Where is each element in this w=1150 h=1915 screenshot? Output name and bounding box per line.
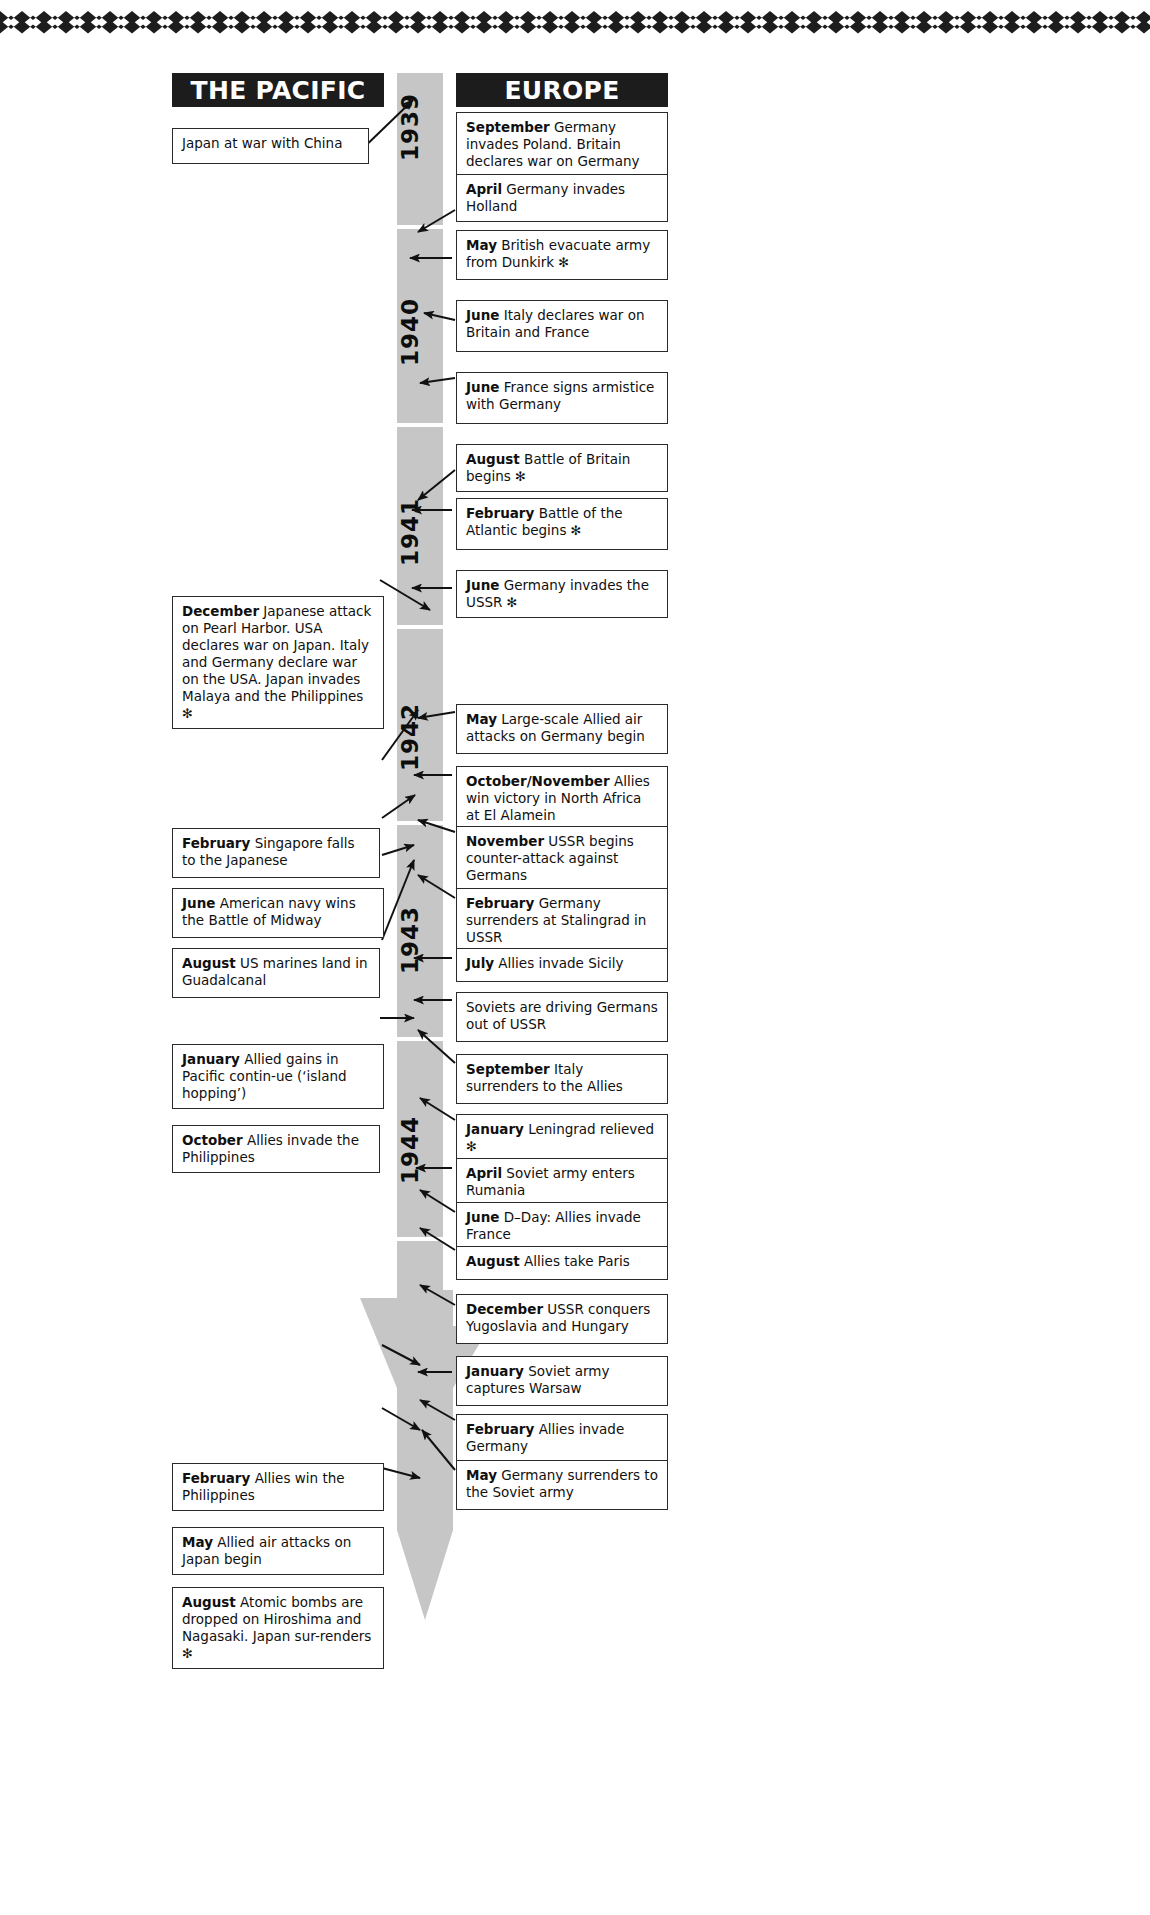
event-box-pac-4: June American navy wins the Battle of Mi… xyxy=(172,888,384,938)
event-month-pac-2: December xyxy=(182,603,259,619)
year-band-1944 xyxy=(397,1041,443,1237)
footnote-asterisk-icon: ✻ xyxy=(182,1646,193,1661)
event-month-eur-15: September xyxy=(466,1061,550,1077)
event-month-eur-4: June xyxy=(466,307,499,323)
event-month-eur-7: February xyxy=(466,505,534,521)
event-box-eur-7: February Battle of the Atlantic begins ✻ xyxy=(456,498,668,550)
event-box-eur-23: May Germany surrenders to the Soviet arm… xyxy=(456,1460,668,1510)
column-header-europe-label: EUROPE xyxy=(504,76,619,105)
event-month-eur-23: May xyxy=(466,1467,497,1483)
event-box-eur-19: August Allies take Paris xyxy=(456,1246,668,1280)
event-month-eur-20: December xyxy=(466,1301,543,1317)
year-band-1940 xyxy=(397,229,443,423)
event-box-eur-16: January Leningrad relieved ✻ xyxy=(456,1114,668,1162)
column-header-europe: EUROPE xyxy=(456,73,668,107)
timeline-canvas: THE PACIFIC EUROPE 1939 1940 1941 1942 1… xyxy=(0,0,1150,1915)
event-month-eur-2: April xyxy=(466,181,502,197)
event-month-eur-17: April xyxy=(466,1165,502,1181)
event-month-eur-13: July xyxy=(466,955,494,971)
column-header-pacific-label: THE PACIFIC xyxy=(191,76,366,105)
event-month-pac-10: August xyxy=(182,1594,236,1610)
event-box-eur-6: August Battle of Britain begins ✻ xyxy=(456,444,668,492)
event-box-eur-20: December USSR conquers Yugoslavia and Hu… xyxy=(456,1294,668,1344)
event-box-pac-8: February Allies win the Philippines xyxy=(172,1463,384,1511)
event-box-eur-14: Soviets are driving Germans out of USSR xyxy=(456,992,668,1042)
event-box-eur-8: June Germany invades the USSR ✻ xyxy=(456,570,668,618)
footnote-asterisk-icon: ✻ xyxy=(182,706,193,721)
event-month-eur-5: June xyxy=(466,379,499,395)
event-month-pac-5: August xyxy=(182,955,236,971)
event-month-pac-3: February xyxy=(182,835,250,851)
year-band-1939 xyxy=(397,73,443,225)
year-band-1942 xyxy=(397,629,443,821)
event-month-eur-18: June xyxy=(466,1209,499,1225)
event-text-eur-14: Soviets are driving Germans out of USSR xyxy=(466,999,658,1032)
event-box-eur-10: October/November Allies win victory in N… xyxy=(456,766,668,831)
event-text-eur-19: Allies take Paris xyxy=(520,1253,630,1269)
event-month-pac-6: January xyxy=(182,1051,240,1067)
event-box-eur-13: July Allies invade Sicily xyxy=(456,948,668,982)
event-month-eur-6: August xyxy=(466,451,520,467)
year-band-1941 xyxy=(397,427,443,625)
event-box-eur-2: April Germany invades Holland xyxy=(456,174,668,222)
event-month-eur-21: January xyxy=(466,1363,524,1379)
event-month-eur-3: May xyxy=(466,237,497,253)
event-month-eur-12: February xyxy=(466,895,534,911)
event-month-eur-8: June xyxy=(466,577,499,593)
event-box-pac-10: August Atomic bombs are dropped on Hiros… xyxy=(172,1587,384,1669)
event-text-eur-16: Leningrad relieved xyxy=(524,1121,654,1137)
event-box-pac-7: October Allies invade the Philippines xyxy=(172,1125,380,1173)
event-box-pac-5: August US marines land in Guadalcanal xyxy=(172,948,380,998)
event-box-pac-2: December Japanese attack on Pearl Harbor… xyxy=(172,596,384,729)
event-text-pac-1: Japan at war with China xyxy=(182,135,342,151)
event-box-eur-4: June Italy declares war on Britain and F… xyxy=(456,300,668,352)
event-box-eur-17: April Soviet army enters Rumania xyxy=(456,1158,668,1206)
event-box-eur-1: September Germany invades Poland. Britai… xyxy=(456,112,668,177)
event-month-pac-8: February xyxy=(182,1470,250,1486)
event-month-eur-19: August xyxy=(466,1253,520,1269)
event-box-pac-1: Japan at war with China xyxy=(172,128,369,164)
event-month-eur-9: May xyxy=(466,711,497,727)
event-box-pac-3: February Singapore falls to the Japanese xyxy=(172,828,380,878)
event-month-eur-16: January xyxy=(466,1121,524,1137)
event-month-pac-7: October xyxy=(182,1132,243,1148)
footnote-asterisk-icon: ✻ xyxy=(554,255,569,270)
event-month-eur-1: September xyxy=(466,119,550,135)
footnote-asterisk-icon: ✻ xyxy=(566,523,581,538)
event-month-eur-22: February xyxy=(466,1421,534,1437)
event-month-eur-10: October/November xyxy=(466,773,610,789)
event-box-eur-21: January Soviet army captures Warsaw xyxy=(456,1356,668,1406)
event-box-eur-12: February Germany surrenders at Stalingra… xyxy=(456,888,668,953)
event-box-eur-5: June France signs armistice with Germany xyxy=(456,372,668,424)
event-month-eur-11: November xyxy=(466,833,544,849)
event-month-pac-4: June xyxy=(182,895,215,911)
event-text-eur-13: Allies invade Sicily xyxy=(494,955,623,971)
year-band-1943 xyxy=(397,825,443,1037)
footnote-asterisk-icon: ✻ xyxy=(511,469,526,484)
event-box-eur-3: May British evacuate army from Dunkirk ✻ xyxy=(456,230,668,280)
event-box-eur-15: September Italy surrenders to the Allies xyxy=(456,1054,668,1104)
event-box-eur-22: February Allies invade Germany xyxy=(456,1414,668,1462)
column-header-pacific: THE PACIFIC xyxy=(172,73,384,107)
footnote-asterisk-icon: ✻ xyxy=(502,595,517,610)
event-box-eur-11: November USSR begins counter-attack agai… xyxy=(456,826,668,891)
event-box-eur-9: May Large-scale Allied air attacks on Ge… xyxy=(456,704,668,754)
footnote-asterisk-icon: ✻ xyxy=(466,1139,477,1154)
event-box-eur-18: June D–Day: Allies invade France xyxy=(456,1202,668,1250)
event-box-pac-6: January Allied gains in Pacific contin-u… xyxy=(172,1044,384,1109)
event-box-pac-9: May Allied air attacks on Japan begin xyxy=(172,1527,384,1575)
event-month-pac-9: May xyxy=(182,1534,213,1550)
